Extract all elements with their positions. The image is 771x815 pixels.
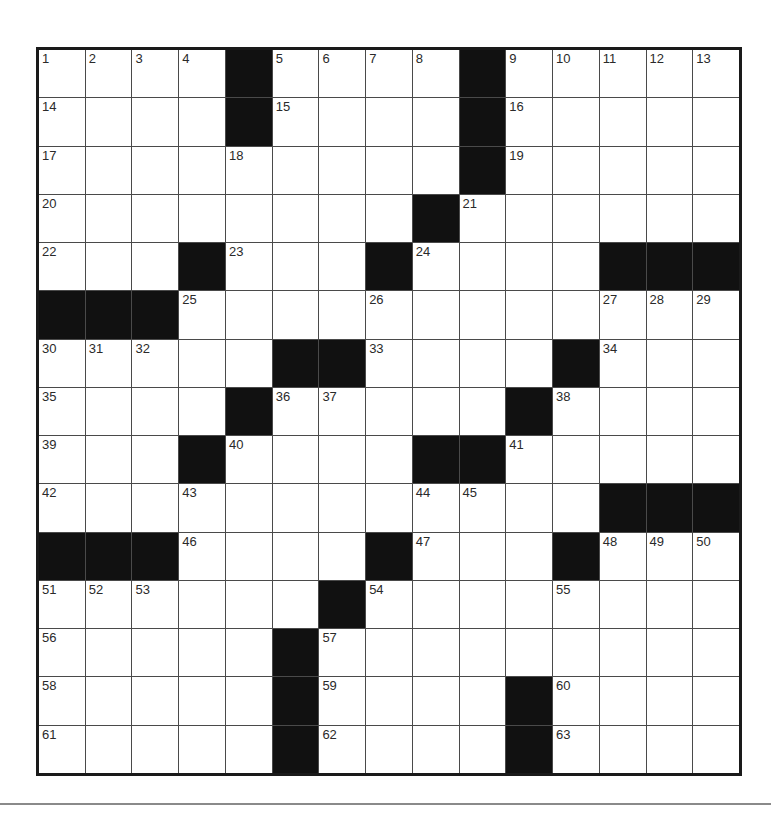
grid-cell[interactable]: 8 <box>413 50 459 97</box>
grid-cell[interactable] <box>319 484 365 531</box>
grid-cell[interactable] <box>132 98 178 145</box>
grid-cell[interactable] <box>86 677 132 724</box>
grid-cell[interactable] <box>86 436 132 483</box>
grid-cell[interactable] <box>553 629 599 676</box>
grid-cell[interactable] <box>600 388 646 435</box>
grid-cell[interactable] <box>553 436 599 483</box>
grid-cell[interactable] <box>460 677 506 724</box>
grid-cell[interactable] <box>460 581 506 628</box>
grid-cell[interactable]: 51 <box>39 581 85 628</box>
grid-cell[interactable] <box>413 388 459 435</box>
grid-cell[interactable] <box>86 388 132 435</box>
grid-cell[interactable]: 21 <box>460 195 506 242</box>
grid-cell[interactable] <box>132 629 178 676</box>
grid-cell[interactable] <box>273 243 319 290</box>
grid-cell[interactable] <box>553 195 599 242</box>
grid-cell[interactable]: 15 <box>273 98 319 145</box>
grid-cell[interactable]: 3 <box>132 50 178 97</box>
grid-cell[interactable] <box>693 98 739 145</box>
grid-cell[interactable] <box>86 195 132 242</box>
grid-cell[interactable] <box>179 677 225 724</box>
grid-cell[interactable]: 48 <box>600 533 646 580</box>
grid-cell[interactable] <box>693 436 739 483</box>
grid-cell[interactable] <box>460 533 506 580</box>
grid-cell[interactable]: 42 <box>39 484 85 531</box>
grid-cell[interactable]: 18 <box>226 147 272 194</box>
grid-cell[interactable] <box>366 484 412 531</box>
grid-cell[interactable] <box>273 195 319 242</box>
grid-cell[interactable]: 56 <box>39 629 85 676</box>
grid-cell[interactable] <box>366 195 412 242</box>
grid-cell[interactable] <box>179 629 225 676</box>
grid-cell[interactable] <box>132 484 178 531</box>
grid-cell[interactable] <box>179 340 225 387</box>
grid-cell[interactable]: 40 <box>226 436 272 483</box>
grid-cell[interactable]: 25 <box>179 291 225 338</box>
grid-cell[interactable] <box>506 533 552 580</box>
grid-cell[interactable] <box>319 436 365 483</box>
grid-cell[interactable]: 23 <box>226 243 272 290</box>
grid-cell[interactable] <box>506 484 552 531</box>
grid-cell[interactable]: 31 <box>86 340 132 387</box>
grid-cell[interactable] <box>600 629 646 676</box>
grid-cell[interactable]: 59 <box>319 677 365 724</box>
grid-cell[interactable]: 53 <box>132 581 178 628</box>
grid-cell[interactable] <box>506 195 552 242</box>
grid-cell[interactable]: 41 <box>506 436 552 483</box>
grid-cell[interactable] <box>647 388 693 435</box>
grid-cell[interactable] <box>600 726 646 773</box>
grid-cell[interactable] <box>693 629 739 676</box>
grid-cell[interactable] <box>647 726 693 773</box>
grid-cell[interactable] <box>86 726 132 773</box>
grid-cell[interactable]: 1 <box>39 50 85 97</box>
grid-cell[interactable] <box>319 291 365 338</box>
grid-cell[interactable] <box>273 533 319 580</box>
grid-cell[interactable] <box>600 98 646 145</box>
grid-cell[interactable]: 13 <box>693 50 739 97</box>
grid-cell[interactable] <box>693 677 739 724</box>
grid-cell[interactable]: 52 <box>86 581 132 628</box>
grid-cell[interactable] <box>179 195 225 242</box>
grid-cell[interactable]: 24 <box>413 243 459 290</box>
grid-cell[interactable] <box>693 195 739 242</box>
grid-cell[interactable]: 50 <box>693 533 739 580</box>
grid-cell[interactable] <box>460 291 506 338</box>
grid-cell[interactable] <box>460 629 506 676</box>
grid-cell[interactable] <box>366 147 412 194</box>
grid-cell[interactable] <box>132 147 178 194</box>
grid-cell[interactable]: 58 <box>39 677 85 724</box>
grid-cell[interactable] <box>506 581 552 628</box>
grid-cell[interactable] <box>600 195 646 242</box>
grid-cell[interactable] <box>319 533 365 580</box>
grid-cell[interactable] <box>693 388 739 435</box>
grid-cell[interactable]: 16 <box>506 98 552 145</box>
grid-cell[interactable]: 62 <box>319 726 365 773</box>
grid-cell[interactable] <box>460 726 506 773</box>
grid-cell[interactable] <box>273 147 319 194</box>
grid-cell[interactable] <box>86 98 132 145</box>
grid-cell[interactable]: 5 <box>273 50 319 97</box>
grid-cell[interactable]: 27 <box>600 291 646 338</box>
grid-cell[interactable] <box>366 726 412 773</box>
grid-cell[interactable] <box>226 195 272 242</box>
grid-cell[interactable] <box>647 98 693 145</box>
grid-cell[interactable]: 46 <box>179 533 225 580</box>
grid-cell[interactable] <box>600 677 646 724</box>
grid-cell[interactable] <box>413 98 459 145</box>
grid-cell[interactable]: 33 <box>366 340 412 387</box>
grid-cell[interactable]: 2 <box>86 50 132 97</box>
grid-cell[interactable] <box>179 98 225 145</box>
grid-cell[interactable] <box>319 243 365 290</box>
grid-cell[interactable] <box>647 195 693 242</box>
grid-cell[interactable]: 14 <box>39 98 85 145</box>
grid-cell[interactable] <box>226 340 272 387</box>
grid-cell[interactable] <box>553 484 599 531</box>
grid-cell[interactable] <box>226 484 272 531</box>
grid-cell[interactable]: 60 <box>553 677 599 724</box>
grid-cell[interactable] <box>366 436 412 483</box>
grid-cell[interactable]: 36 <box>273 388 319 435</box>
grid-cell[interactable] <box>413 581 459 628</box>
grid-cell[interactable] <box>86 147 132 194</box>
grid-cell[interactable] <box>460 243 506 290</box>
grid-cell[interactable]: 9 <box>506 50 552 97</box>
